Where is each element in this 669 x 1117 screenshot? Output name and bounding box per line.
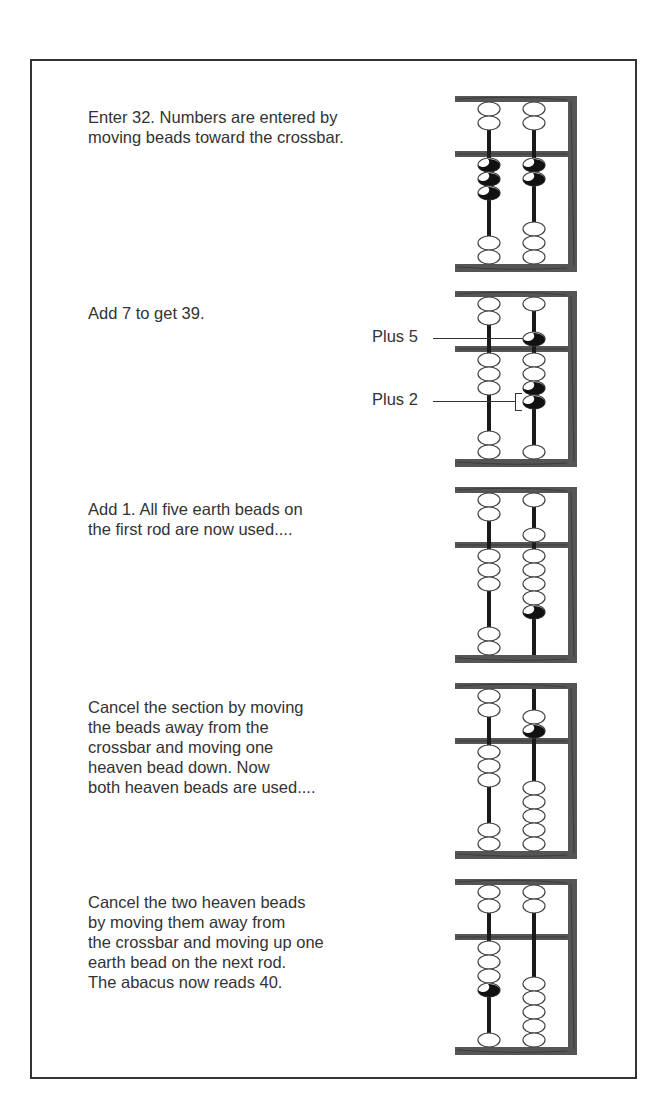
earth-bead-tens-5	[478, 1033, 500, 1047]
earth-bead-tens-4	[478, 983, 500, 997]
earth-bead-units-2	[523, 367, 545, 381]
earth-bead-units-4	[523, 591, 545, 605]
abacus-step-2	[455, 291, 579, 467]
earth-bead-units-1	[523, 353, 545, 367]
earth-bead-tens-4	[478, 823, 500, 837]
earth-bead-units-3	[523, 1005, 545, 1019]
earth-bead-units-2	[523, 795, 545, 809]
step-4-text: Cancel the section by moving the beads a…	[88, 697, 418, 797]
earth-bead-units-1	[523, 549, 545, 563]
earth-bead-units-2	[523, 563, 545, 577]
abacus-step-5	[455, 879, 579, 1055]
heaven-bead-units-2	[523, 528, 545, 542]
earth-bead-units-3	[523, 222, 545, 236]
earth-bead-units-2	[523, 991, 545, 1005]
earth-bead-units-4	[523, 236, 545, 250]
heaven-bead-units-1	[523, 102, 545, 116]
earth-bead-tens-5	[478, 445, 500, 459]
earth-bead-units-5	[523, 605, 545, 619]
earth-bead-tens-4	[478, 431, 500, 445]
earth-bead-tens-3	[478, 577, 500, 591]
callout-plus-5-label: Plus 5	[372, 327, 418, 346]
earth-bead-tens-1	[478, 353, 500, 367]
step-1-text: Enter 32. Numbers are entered by moving …	[88, 107, 418, 147]
heaven-bead-units-2	[523, 899, 545, 913]
heaven-bead-tens-2	[478, 311, 500, 325]
earth-bead-units-3	[523, 381, 545, 395]
earth-bead-tens-3	[478, 381, 500, 395]
heaven-bead-units-1	[523, 297, 545, 311]
earth-bead-units-4	[523, 1019, 545, 1033]
earth-bead-units-1	[523, 977, 545, 991]
step-3-text: Add 1. All five earth beads on the first…	[88, 499, 418, 539]
step-2-text: Add 7 to get 39.	[88, 303, 418, 323]
heaven-bead-units-2	[523, 724, 545, 738]
earth-bead-units-1	[523, 781, 545, 795]
callout-plus-2-bracket	[515, 393, 522, 411]
heaven-bead-tens-1	[478, 493, 500, 507]
heaven-bead-tens-1	[478, 689, 500, 703]
abacus-step-1	[455, 96, 579, 272]
callout-plus-2-line	[433, 401, 515, 402]
earth-bead-tens-3	[478, 773, 500, 787]
callout-plus-5-line	[433, 338, 523, 339]
earth-bead-tens-4	[478, 236, 500, 250]
abacus-step-4	[455, 683, 579, 859]
earth-bead-units-5	[523, 250, 545, 264]
earth-bead-tens-5	[478, 250, 500, 264]
earth-bead-tens-2	[478, 367, 500, 381]
earth-bead-tens-2	[478, 563, 500, 577]
heaven-bead-units-1	[523, 885, 545, 899]
earth-bead-tens-3	[478, 186, 500, 200]
earth-bead-units-4	[523, 395, 545, 409]
heaven-bead-units-2	[523, 116, 545, 130]
earth-bead-tens-3	[478, 969, 500, 983]
earth-bead-tens-5	[478, 641, 500, 655]
earth-bead-tens-1	[478, 745, 500, 759]
earth-bead-units-5	[523, 1033, 545, 1047]
earth-bead-tens-5	[478, 837, 500, 851]
abacus-step-3	[455, 487, 579, 663]
earth-bead-tens-2	[478, 955, 500, 969]
heaven-bead-tens-1	[478, 885, 500, 899]
heaven-bead-tens-2	[478, 703, 500, 717]
earth-bead-tens-2	[478, 759, 500, 773]
earth-bead-units-5	[523, 445, 545, 459]
heaven-bead-units-2	[523, 332, 545, 346]
earth-bead-tens-4	[478, 627, 500, 641]
heaven-bead-tens-2	[478, 899, 500, 913]
heaven-bead-tens-1	[478, 297, 500, 311]
heaven-bead-tens-2	[478, 507, 500, 521]
earth-bead-tens-1	[478, 549, 500, 563]
heaven-bead-units-1	[523, 493, 545, 507]
callout-plus-2-label: Plus 2	[372, 390, 418, 409]
earth-bead-units-5	[523, 837, 545, 851]
heaven-bead-tens-2	[478, 116, 500, 130]
earth-bead-units-4	[523, 823, 545, 837]
earth-bead-units-3	[523, 809, 545, 823]
heaven-bead-units-1	[523, 710, 545, 724]
earth-bead-units-3	[523, 577, 545, 591]
earth-bead-tens-1	[478, 158, 500, 172]
earth-bead-tens-1	[478, 941, 500, 955]
earth-bead-units-1	[523, 158, 545, 172]
step-5-text: Cancel the two heaven beads by moving th…	[88, 892, 418, 992]
earth-bead-tens-2	[478, 172, 500, 186]
heaven-bead-tens-1	[478, 102, 500, 116]
earth-bead-units-2	[523, 172, 545, 186]
